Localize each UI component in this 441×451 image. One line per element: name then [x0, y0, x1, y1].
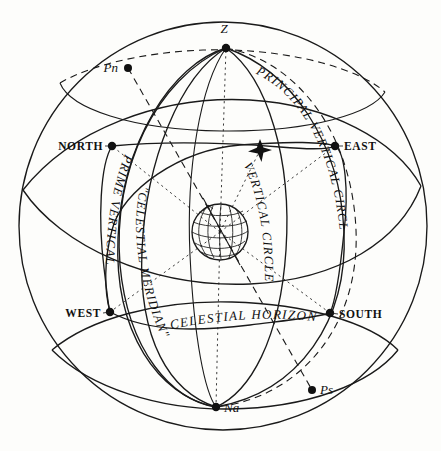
- nadir-dot: [212, 403, 220, 411]
- south-point-label: SOUTH: [339, 308, 382, 320]
- label-celestial-horizon: CELESTIAL HORIZON: [168, 307, 318, 333]
- celestial-sphere-figure: PRINCIPAL VERTICAL CIRCLE VERTICAL CIRCL…: [0, 0, 441, 451]
- nadir-label: Na: [223, 400, 240, 415]
- east-point-label: EAST: [344, 140, 376, 152]
- label-celestial-meridian: "CELESTIAL MERIDIAN": [133, 185, 173, 341]
- north-pole-label: Pn: [103, 60, 118, 75]
- west-point-label: WEST: [65, 307, 101, 319]
- south-pole-dot: [308, 386, 316, 394]
- zenith-dot: [222, 44, 230, 52]
- south-pole-label: Ps: [319, 382, 333, 397]
- star-marker: [248, 139, 272, 162]
- principal-vertical-circle: [216, 48, 356, 407]
- north-pole-dot: [124, 64, 132, 72]
- north-point-label: NORTH: [58, 140, 103, 152]
- celestial-sphere-svg: PRINCIPAL VERTICAL CIRCLE VERTICAL CIRCL…: [0, 0, 441, 451]
- zenith-label: Z: [220, 21, 228, 36]
